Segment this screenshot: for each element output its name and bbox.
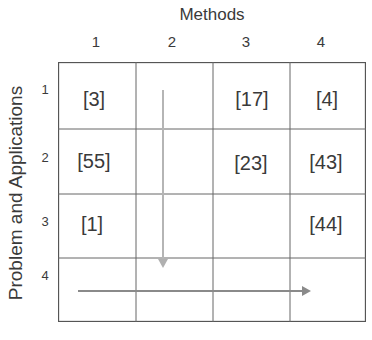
row-label-4: 4 <box>38 268 52 283</box>
x-axis-title: Methods <box>150 5 274 25</box>
row-label-2: 2 <box>38 150 52 165</box>
cell-r2c4: [43] <box>300 151 352 174</box>
cell-r3c1: [1] <box>70 213 114 236</box>
cell-r2c3: [23] <box>225 152 277 175</box>
column-label-3: 3 <box>236 33 256 50</box>
cell-r1c4: [4] <box>303 88 351 111</box>
cell-r2c1: [55] <box>68 150 120 173</box>
column-label-4: 4 <box>311 33 331 50</box>
cell-r1c1: [3] <box>70 88 118 111</box>
column-label-2: 2 <box>162 33 182 50</box>
cell-r1c3: [17] <box>226 88 278 111</box>
cell-r3c4: [44] <box>300 213 352 236</box>
row-label-1: 1 <box>38 82 52 97</box>
column-label-1: 1 <box>86 33 106 50</box>
y-axis-title: Problem and Applications <box>5 58 27 328</box>
row-label-3: 3 <box>38 214 52 229</box>
